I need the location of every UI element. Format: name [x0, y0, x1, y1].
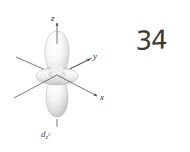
orbital-caption: dz2: [41, 130, 51, 141]
caption-superscript: 2: [48, 132, 51, 137]
orbital-figure: z y x dz2 34: [0, 0, 190, 152]
axis-positive-y: [70, 59, 90, 69]
axis-label-x: x: [100, 93, 104, 102]
axis-label-y: y: [93, 52, 97, 61]
axis-label-z: z: [51, 14, 55, 23]
handwritten-annotation: 34: [135, 24, 167, 56]
orbital-illustration: [0, 0, 190, 152]
